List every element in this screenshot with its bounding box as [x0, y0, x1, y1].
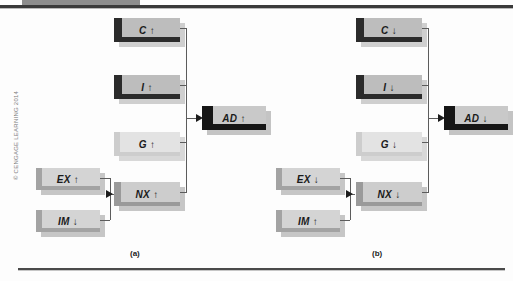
node-ex-a: EX ↑ [36, 168, 100, 190]
node-bottom-edge [36, 186, 100, 190]
node-c-b: C ↓ [356, 18, 422, 42]
node-i-b: I ↓ [356, 75, 422, 99]
node-bottom-edge [202, 124, 266, 130]
node-ad-b: AD ↓ [444, 106, 508, 130]
node-label: IM ↑ [298, 216, 318, 227]
node-bottom-edge [356, 94, 422, 99]
connector-ex-stub [340, 178, 350, 179]
node-bottom-edge [276, 186, 340, 190]
node-g-a: G ↑ [114, 132, 180, 156]
node-label: G ↑ [139, 139, 155, 150]
node-label: EX ↓ [297, 174, 319, 185]
node-g-b: G ↓ [356, 132, 422, 156]
node-i-a: I ↑ [114, 75, 180, 99]
connector-exim-bus [350, 178, 351, 220]
node-label: AD ↓ [464, 113, 487, 124]
node-bottom-edge [356, 202, 422, 206]
node-label: I ↓ [383, 82, 394, 93]
panel-a-caption: (a) [130, 249, 140, 258]
copyright-notice: © CENGAGE LEARNING 2014 [10, 84, 22, 180]
figure-page: © CENGAGE LEARNING 2014 C ↑ I ↑ G ↑ [0, 0, 513, 281]
node-im-b: IM ↑ [276, 210, 340, 232]
panel-b-caption: (b) [372, 249, 382, 258]
arrow-to-nx [106, 190, 113, 198]
arrow-to-nx [346, 190, 353, 198]
node-c-a: C ↑ [114, 18, 180, 42]
node-label: C ↑ [139, 25, 155, 36]
node-bottom-edge [114, 94, 180, 99]
node-label: NX ↑ [136, 189, 159, 200]
top-horizontal-rule-highlight [0, 8, 513, 9]
connector-im-stub [340, 220, 350, 221]
connector-im-stub [100, 220, 110, 221]
node-label: NX ↓ [378, 189, 401, 200]
node-nx-a: NX ↑ [114, 182, 180, 206]
node-bottom-edge [114, 202, 180, 206]
connector-bus-vertical [186, 28, 187, 193]
node-bottom-edge [114, 152, 180, 156]
connector-ex-stub [100, 178, 110, 179]
node-bottom-edge [356, 152, 422, 156]
node-label: IM ↓ [58, 216, 78, 227]
node-label: EX ↑ [57, 174, 79, 185]
node-label: C ↓ [381, 25, 397, 36]
connector-exim-bus [110, 178, 111, 220]
node-label: I ↑ [141, 82, 152, 93]
node-bottom-edge [356, 37, 422, 42]
node-label: AD ↑ [222, 113, 245, 124]
node-bottom-edge [36, 228, 100, 232]
node-nx-b: NX ↓ [356, 182, 422, 206]
node-im-a: IM ↓ [36, 210, 100, 232]
connector-bus-vertical [428, 28, 429, 193]
node-ex-b: EX ↓ [276, 168, 340, 190]
node-bottom-edge [444, 124, 508, 130]
node-bottom-edge [114, 37, 180, 42]
node-ad-a: AD ↑ [202, 106, 266, 130]
node-bottom-edge [276, 228, 340, 232]
node-label: G ↓ [381, 139, 397, 150]
bottom-horizontal-rule-highlight [18, 270, 505, 271]
